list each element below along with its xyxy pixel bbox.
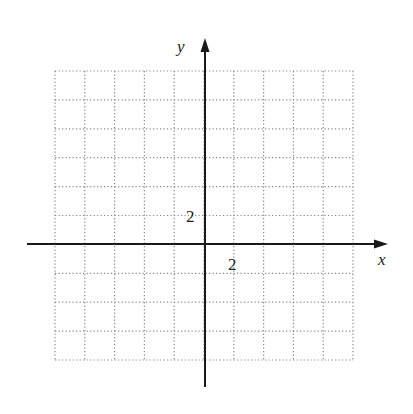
- y-axis-arrowhead-icon: [201, 38, 210, 52]
- axes: [27, 38, 388, 387]
- y-axis-label: y: [175, 37, 185, 56]
- coordinate-plane: x y 2 2: [0, 0, 413, 414]
- y-scale-tick-label: 2: [186, 207, 195, 226]
- x-axis-label: x: [377, 250, 386, 269]
- x-scale-tick-label: 2: [228, 255, 237, 274]
- x-axis-arrowhead-icon: [374, 240, 388, 249]
